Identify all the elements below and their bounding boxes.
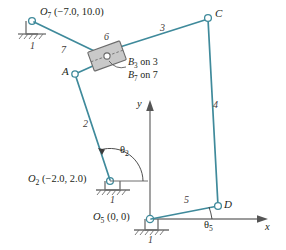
label-link-4: 4 [213,100,218,110]
y-axis-arrowhead [146,100,154,111]
ground-support-o7 [18,18,46,39]
label-link-2: 2 [83,119,88,129]
joint-a [72,71,78,77]
label-point-d: D [224,199,232,210]
label-link-6: 6 [104,32,109,42]
joint-o7 [29,18,36,25]
label-y-axis: y [137,99,142,110]
link-2-member [75,74,110,180]
label-b7-rest: on 7 [138,69,158,80]
label-o7: O7 (−7.0, 10.0) [40,7,104,20]
label-o5-subscript: 5 [101,216,105,225]
label-o5-symbol: O [93,211,101,222]
label-o7-coord: (−7.0, 10.0) [54,6,104,17]
label-x-axis: x [265,222,270,233]
angle-theta5-marker [209,207,212,219]
theta5-arc [209,207,212,219]
label-b3-rest: on 3 [138,56,158,67]
label-o7-subscript: 7 [48,11,52,20]
label-o2-subscript: 2 [36,178,40,187]
mechanism-drawing [0,0,286,250]
label-ground-o7: 1 [30,41,35,51]
coordinate-axes [146,100,268,223]
label-o7-symbol: O [40,6,48,17]
label-link-5: 5 [184,195,189,205]
label-ground-o5: 1 [148,235,153,245]
label-o2: O2 (−2.0, 2.0) [28,174,86,187]
theta5-subscript: 5 [209,224,213,233]
label-link-7: 7 [61,45,66,55]
label-theta5: θ5 [204,220,213,233]
joint-c [205,15,212,22]
link-4-member [208,19,218,206]
label-o5-coord: (0, 0) [107,211,130,222]
ground-support-o2 [96,178,130,195]
link-5-member [151,206,218,219]
theta2-subscript: 2 [125,149,129,158]
label-b7-on-7: B7 on 7 [128,70,158,83]
mechanism-figure: O7 (−7.0, 10.0) O2 (−2.0, 2.0) O5 (0, 0)… [0,0,286,250]
label-o2-symbol: O [28,173,36,184]
label-link-3: 3 [160,23,165,33]
label-ground-o2: 1 [110,195,115,205]
label-point-a: A [62,66,69,77]
label-o2-coord: (−2.0, 2.0) [42,173,86,184]
label-theta2: θ2 [120,145,129,158]
label-point-c: C [215,8,222,19]
joint-b-slider-pin [104,53,110,59]
label-o5: O5 (0, 0) [93,212,130,225]
joint-d [215,203,222,210]
o7-hatching [19,34,43,39]
